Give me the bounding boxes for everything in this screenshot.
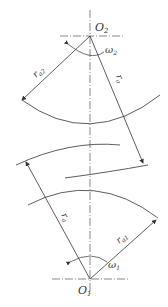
gear1-base-arc — [28, 190, 158, 218]
radius-top-left-line — [22, 36, 90, 100]
radius-bottom-right-line — [90, 220, 156, 279]
gear2-addendum-arc — [22, 95, 160, 124]
omega2-arc — [68, 44, 104, 56]
gear1-addendum-arc — [16, 144, 120, 165]
radius-bottom-left-line — [26, 162, 90, 279]
gear2-base-arc — [65, 165, 148, 178]
radius-top-left-label: ra2 — [31, 64, 47, 80]
radius-bottom-right-label: ra1 — [114, 230, 130, 246]
gear-mesh-diagram: O2 ω2 ra2 ra ra ra1 ω1 O1 — [0, 0, 168, 307]
center-o2-label: O2 — [95, 21, 109, 35]
omega1-arc — [70, 256, 107, 262]
omega2-label: ω2 — [105, 44, 117, 56]
diagram-canvas: O2 ω2 ra2 ra ra ra1 ω1 O1 — [0, 0, 168, 307]
radius-bottom-left-label: ra — [58, 211, 72, 224]
radius-top-right-label: ra — [113, 73, 126, 85]
center-o1-label: O1 — [78, 284, 92, 298]
omega1-label: ω1 — [108, 259, 120, 271]
